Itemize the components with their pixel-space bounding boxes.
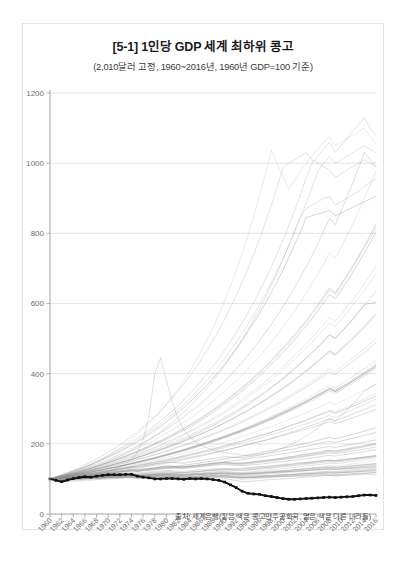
plot-area: 020040060080010001200 196019621964196619…	[23, 24, 385, 531]
y-axis-ticks: 020040060080010001200	[26, 89, 50, 519]
svg-text:1000: 1000	[26, 159, 44, 168]
source-note: 출처: 세계은행(짙은 색은 콩고민주공화국, 옅은 색은 다른 나라들)	[175, 510, 371, 521]
svg-text:200: 200	[31, 440, 45, 449]
svg-text:0: 0	[40, 510, 45, 519]
svg-text:400: 400	[31, 370, 45, 379]
line-chart-svg: 020040060080010001200 196019621964196619…	[23, 24, 385, 531]
figure-card: [5-1] 1인당 GDP 세계 최하위 콩고 (2,010달러 고정, 196…	[22, 23, 384, 530]
grid-lines	[50, 93, 376, 444]
svg-text:1200: 1200	[26, 89, 44, 98]
svg-text:600: 600	[31, 299, 45, 308]
svg-text:800: 800	[31, 229, 45, 238]
series-lines	[50, 118, 376, 482]
